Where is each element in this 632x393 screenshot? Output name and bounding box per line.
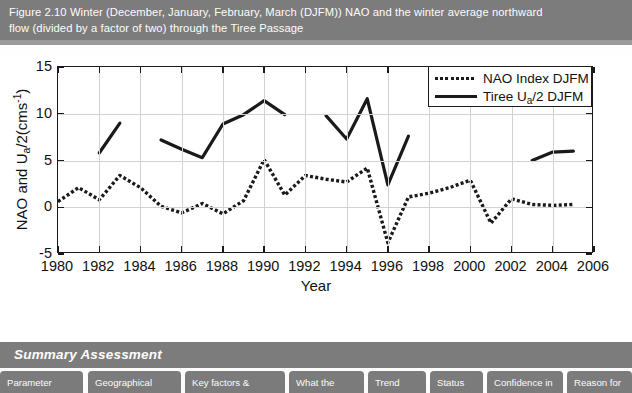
x-tick-label: 1994 xyxy=(329,258,361,274)
figure-page: Figure 2.10 Winter (December, January, F… xyxy=(0,0,632,393)
summary-table-header-cell[interactable]: What the xyxy=(289,371,364,393)
summary-table-header-cell[interactable]: Trend xyxy=(368,371,426,393)
x-tick-label: 1996 xyxy=(371,258,403,274)
x-tick-label: 2002 xyxy=(494,258,526,274)
x-tick-label: 1986 xyxy=(165,258,197,274)
summary-table-header-cell[interactable]: Geographical xyxy=(88,371,181,393)
x-tick-label: 1992 xyxy=(288,258,320,274)
x-tick-label: 1990 xyxy=(247,258,279,274)
figure-caption-banner: Figure 2.10 Winter (December, January, F… xyxy=(0,0,632,40)
x-tick-label: 2004 xyxy=(536,258,568,274)
summary-table-header-cell[interactable]: Status xyxy=(430,371,483,393)
summary-table-header-cell[interactable]: Confidence in xyxy=(487,371,563,393)
figure-caption-text: Figure 2.10 Winter (December, January, F… xyxy=(9,4,619,36)
x-tick-label: 1998 xyxy=(412,258,444,274)
x-tick-label: 2000 xyxy=(453,258,485,274)
y-axis-title: NAO and Ua/2(cms-1) xyxy=(13,55,30,265)
summary-table-header-cell[interactable]: Parameter xyxy=(0,371,83,393)
x-tick-label: 1984 xyxy=(123,258,155,274)
summary-assessment-banner: Summary Assessment xyxy=(0,342,632,368)
x-tick-label: 1982 xyxy=(82,258,114,274)
chart-figure: NAO Index DJFM Tiree Ua/2 DJFM 151050-5 … xyxy=(0,45,632,320)
x-tick-label: 1980 xyxy=(41,258,73,274)
summary-table-header-cell[interactable]: Key factors & xyxy=(185,371,285,393)
x-tick-label: 1988 xyxy=(206,258,238,274)
x-tick-label: 2006 xyxy=(577,258,609,274)
x-axis-title: Year xyxy=(0,277,632,294)
summary-assessment-label: Summary Assessment xyxy=(14,347,162,362)
summary-table-header-row: ParameterGeographicalKey factors &What t… xyxy=(0,371,632,393)
summary-table-header-cell[interactable]: Reason for xyxy=(567,371,632,393)
